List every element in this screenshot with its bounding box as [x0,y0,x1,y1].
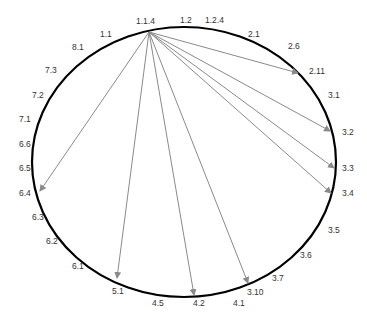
node-label: 4.2 [193,298,205,308]
edge-1.1.4-to-6.4 [40,32,149,191]
node-label: 4.5 [152,298,164,308]
node-label: 6.3 [32,212,44,222]
node-ring [32,27,336,297]
node-label: 6.6 [19,139,31,149]
circular-dependency-diagram: 1.1.41.21.2.42.12.62.113.13.23.33.43.53.… [0,0,367,324]
edge-1.1.4-to-3.4 [149,32,331,193]
node-label: 2.1 [248,29,260,39]
node-label: 6.1 [72,261,84,271]
node-label: 1.1 [100,29,112,39]
node-label: 3.1 [328,90,340,100]
label-group: 1.1.41.21.2.42.12.62.113.13.23.33.43.53.… [19,15,354,308]
node-label: 6.5 [19,163,31,173]
node-label: 3.3 [342,163,354,173]
node-label: 8.1 [72,42,84,52]
node-label: 7.3 [45,65,57,75]
node-label: 7.1 [19,114,31,124]
node-label: 3.6 [300,250,312,260]
node-label: 3.2 [342,127,354,137]
edge-1.1.4-to-3.2 [149,32,330,131]
edge-1.1.4-to-2.11 [149,32,298,73]
edge-1.1.4-to-3.10 [149,32,248,283]
node-label: 7.2 [32,90,44,100]
node-label: 3.7 [272,273,284,283]
node-label: 5.1 [112,286,124,296]
edge-1.1.4-to-3.3 [149,32,334,168]
node-label: 3.5 [328,225,340,235]
node-label: 2.11 [309,66,325,76]
node-label: 6.4 [19,188,31,198]
node-label: 3.4 [342,188,354,198]
node-label: 1.2.4 [205,15,224,25]
node-label: 1.1.4 [136,16,155,26]
node-label: 1.2 [180,15,192,25]
edge-1.1.4-to-4.2 [149,32,194,295]
node-label: 2.6 [288,41,300,51]
node-label: 4.1 [233,298,245,308]
edge-group [40,32,334,295]
node-label: 3.10 [247,287,264,297]
edge-1.1.4-to-5.1 [117,32,149,278]
node-label: 6.2 [46,236,58,246]
